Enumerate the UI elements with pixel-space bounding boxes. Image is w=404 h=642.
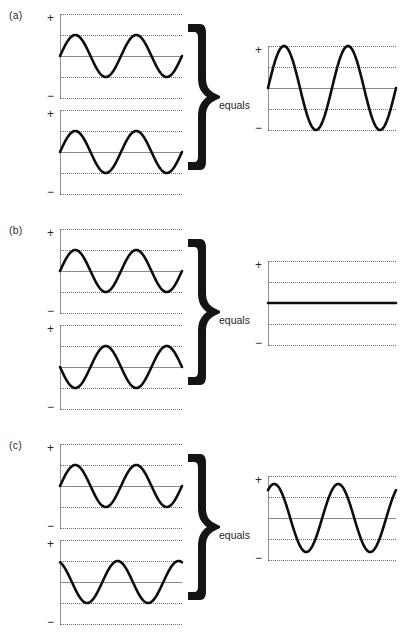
plot-area: +− [60, 14, 182, 98]
axis-negative-label: − [40, 401, 54, 413]
wave-1-curve [60, 444, 182, 528]
panel-a-input-wave-2-plot: +− [60, 110, 182, 194]
axis-negative-label: − [248, 122, 262, 134]
panel-b-input-wave-2-plot: +− [60, 325, 182, 409]
gridline [60, 528, 182, 529]
axis-positive-label: + [40, 227, 54, 239]
panel-b-equals-label: equals [219, 314, 250, 326]
panel-b-label: (b) [9, 224, 22, 236]
axis-positive-label: + [248, 259, 262, 271]
panel-c-label: (c) [9, 439, 22, 451]
panel-c-input-wave-1-plot: +− [60, 444, 182, 528]
axis-negative-label: − [40, 90, 54, 102]
resultant-wave-curve [268, 46, 396, 130]
gridline [60, 409, 182, 410]
panel-a-brace [186, 24, 220, 170]
resultant-flat-line-curve [268, 261, 396, 345]
panel-a: (a) +− +− equals +− [0, 0, 404, 212]
axis-negative-label: − [40, 520, 54, 532]
gridline [60, 194, 182, 195]
wave-1-curve [60, 229, 182, 313]
plot-area: +− [268, 261, 396, 345]
plot-area: +− [60, 540, 182, 624]
panel-c-result-plot: +− [268, 476, 396, 560]
brace-glyph [186, 454, 220, 600]
gridline [268, 345, 396, 346]
panel-c-equals-label: equals [219, 529, 250, 541]
axis-negative-label: − [248, 552, 262, 564]
axis-positive-label: + [40, 323, 54, 335]
plot-area: +− [60, 444, 182, 528]
resultant-wave-curve [268, 476, 396, 560]
panel-c-input-wave-2-plot: +− [60, 540, 182, 624]
axis-positive-label: + [248, 44, 262, 56]
panel-a-equals-label: equals [219, 99, 250, 111]
axis-negative-label: − [40, 305, 54, 317]
gridline [60, 624, 182, 625]
plot-area: +− [268, 46, 396, 130]
plot-area: +− [60, 325, 182, 409]
axis-negative-label: − [40, 186, 54, 198]
plot-area: +− [60, 110, 182, 194]
axis-positive-label: + [248, 474, 262, 486]
gridline [268, 130, 396, 131]
panel-b-brace [186, 239, 220, 385]
axis-positive-label: + [40, 538, 54, 550]
axis-positive-label: + [40, 442, 54, 454]
brace-glyph [186, 24, 220, 170]
wave-2-curve [60, 110, 182, 194]
panel-b: (b) +− +− equals +− [0, 215, 404, 427]
plot-area: +− [268, 476, 396, 560]
gridline [60, 98, 182, 99]
axis-positive-label: + [40, 108, 54, 120]
wave-2-curve [60, 540, 182, 624]
panel-a-result-plot: +− [268, 46, 396, 130]
axis-negative-label: − [40, 616, 54, 628]
panel-a-input-wave-1-plot: +− [60, 14, 182, 98]
panel-a-label: (a) [9, 9, 22, 21]
panel-c: (c) +− +− equals +− [0, 430, 404, 642]
axis-negative-label: − [248, 337, 262, 349]
plot-area: +− [60, 229, 182, 313]
axis-positive-label: + [40, 12, 54, 24]
brace-glyph [186, 239, 220, 385]
gridline [60, 313, 182, 314]
gridline [268, 560, 396, 561]
wave-2-curve [60, 325, 182, 409]
panel-c-brace [186, 454, 220, 600]
wave-1-curve [60, 14, 182, 98]
panel-b-input-wave-1-plot: +− [60, 229, 182, 313]
panel-b-result-plot: +− [268, 261, 396, 345]
